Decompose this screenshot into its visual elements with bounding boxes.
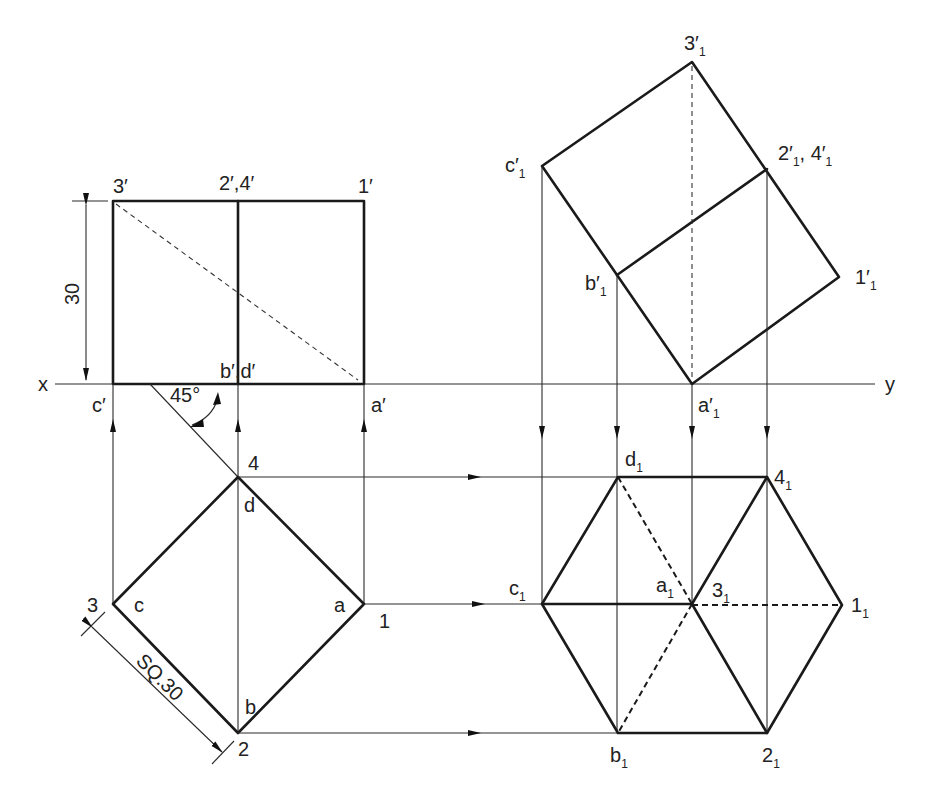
label-2: 2 [238,738,249,760]
y-label: y [885,373,895,395]
label-c: c [134,594,144,616]
label-a: a [334,594,346,616]
projectors-vertical-right [542,166,767,733]
angle-label: 45° [170,384,200,406]
label-3-prime: 3′ [113,175,128,197]
label-b-prime-1: b′1 [585,272,607,299]
label-2-1: 21 [762,744,780,771]
label-c-prime-1: c′1 [505,154,526,181]
label-a-prime-1: a′1 [698,394,720,421]
angle-45-construction: 45° [150,384,238,477]
label-b-1: b1 [610,744,628,771]
x-label: x [38,373,48,395]
front-view: 30 3′ 2′,4′ 1′ b′,d′ c′ a′ [61,172,386,416]
label-c-prime: c′ [92,394,106,416]
label-c-1: c1 [509,577,526,604]
label-d-1: d1 [625,448,643,475]
label-2-4-prime-1: 2′1, 4′1 [778,142,833,169]
label-b-d-prime: b′,d′ [220,360,256,382]
label-2-4-prime: 2′,4′ [219,172,255,194]
label-3-prime-1: 3′1 [684,32,706,59]
height-dimension: 30 [61,283,83,305]
side-dimension: SQ.30 [132,649,188,705]
label-4-1: 41 [774,466,792,493]
label-d: d [244,494,255,516]
label-a-prime: a′ [371,394,386,416]
auxiliary-front-view: 3′1 c′1 2′1, 4′1 b′1 1′1 a′1 [505,32,877,421]
label-3-1: 31 [712,579,730,606]
label-1-prime: 1′ [358,175,373,197]
cropped-caption-strip [40,792,340,802]
top-view: 4 d 3 c 1 a 2 b SQ.30 [81,452,390,764]
label-4: 4 [248,452,259,474]
label-1: 1 [379,610,390,632]
label-b: b [245,696,256,718]
label-1-prime-1: 1′1 [855,266,877,293]
projection-drawing: x y 30 3′ 2′,4′ 1′ b′,d′ c′ a′ 45° [0,0,934,802]
label-1-1: 11 [851,594,869,621]
label-a-1: a1 [656,574,674,601]
label-3: 3 [87,594,98,616]
auxiliary-top-view: d1 41 c1 a1 31 11 b1 21 [509,448,869,771]
